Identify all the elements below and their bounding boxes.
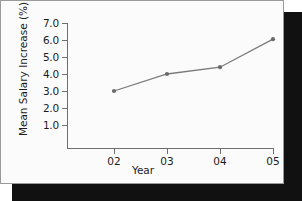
figure-page: 7.0 6.0 5.0 4.0 3.0 2.0 1.0 02 03 04 05 … — [0, 0, 302, 201]
series-line — [114, 39, 273, 91]
chart-card: 7.0 6.0 5.0 4.0 3.0 2.0 1.0 02 03 04 05 … — [0, 0, 284, 184]
data-point — [165, 72, 169, 76]
data-point — [218, 65, 222, 69]
data-series-layer — [1, 1, 285, 185]
series-markers — [112, 37, 275, 93]
data-point — [271, 37, 275, 41]
data-point — [112, 89, 116, 93]
plot-area: 7.0 6.0 5.0 4.0 3.0 2.0 1.0 02 03 04 05 … — [1, 1, 285, 185]
